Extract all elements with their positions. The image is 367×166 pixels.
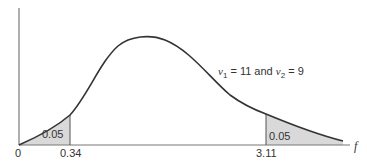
tick-0: 0 [15,148,21,159]
parameters-label: v1 = 11 and v2 = 9 [218,66,304,80]
tick-lower-critical: 0.34 [60,148,81,159]
f-distribution-chart [0,0,367,166]
x-axis-label: f [354,140,357,152]
tick-upper-critical: 3.11 [256,148,277,159]
left-area-label: 0.05 [42,129,63,140]
right-area-label: 0.05 [269,131,290,142]
